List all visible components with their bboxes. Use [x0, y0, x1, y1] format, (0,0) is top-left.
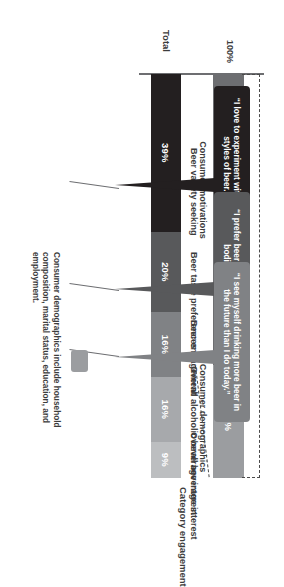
- legend-swatch-consumer-demographics: [71, 350, 88, 372]
- legend-note-text: Consumer demographics include household …: [31, 252, 63, 442]
